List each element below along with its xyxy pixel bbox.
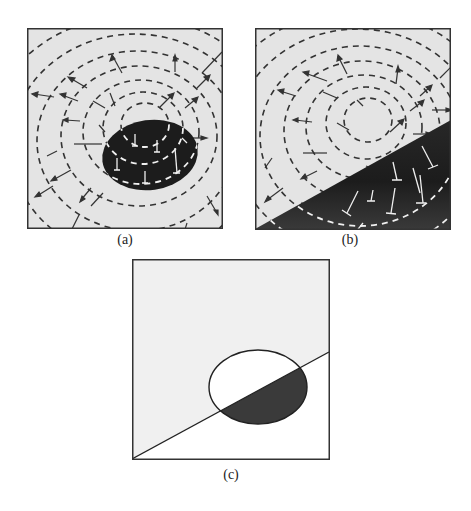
- panel-a-label: (a): [105, 232, 145, 248]
- panel-b-figure: [255, 28, 451, 230]
- panel-b-label: (b): [330, 232, 370, 248]
- panel-b: [255, 28, 451, 230]
- panel-c-label: (c): [211, 467, 251, 483]
- panel-a: [27, 28, 223, 229]
- panel-a-figure: [27, 28, 223, 229]
- panel-c: [132, 259, 330, 460]
- panel-c-figure: [132, 259, 330, 460]
